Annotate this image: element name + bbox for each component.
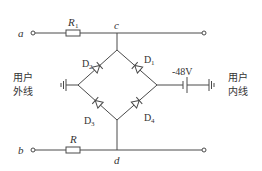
terminal-bottom-right [202,148,206,152]
svg-text:1: 1 [151,59,155,67]
svg-text:1: 1 [75,22,79,30]
svg-text:内线: 内线 [228,85,248,97]
right-side-label: 用户 内线 [228,71,248,97]
terminal-a-label: a [18,27,24,39]
battery-branch [157,77,214,93]
node-c-label: c [114,19,119,31]
svg-text:用户: 用户 [13,71,33,83]
svg-text:2: 2 [89,63,93,71]
diode-d3-label: D 3 [84,115,95,128]
resistor-r [66,147,80,153]
battery-voltage-label: -48V [172,66,193,77]
terminal-top-right [202,31,206,35]
svg-text:用户: 用户 [228,71,248,83]
terminal-a [31,31,35,35]
diode-d4-label: D 4 [144,112,155,125]
diode-d2-label: D 2 [82,58,93,71]
resistor-r1 [66,30,80,36]
svg-text:外线: 外线 [13,85,33,97]
svg-text:R: R [69,133,77,145]
terminal-b [31,148,35,152]
diode-d1-label: D 1 [144,54,155,67]
resistor-r1-label: R 1 [67,16,79,30]
right-ground-icon [209,79,214,91]
terminal-b-label: b [18,144,24,156]
bridge-circuit-diagram: a b c d R 1 R D 2 D 1 D 3 D 4 -48V 用户 外线… [0,0,262,171]
left-ground-icon [61,79,78,91]
bottom-line [31,147,206,153]
node-d-label: d [114,154,120,166]
left-side-label: 用户 外线 [13,71,33,97]
svg-text:3: 3 [91,120,95,128]
svg-text:4: 4 [151,117,155,125]
resistor-r-label: R [69,133,77,145]
svg-text:R: R [67,16,75,28]
battery-icon [183,77,187,93]
